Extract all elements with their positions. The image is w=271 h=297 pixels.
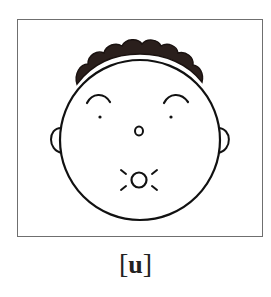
phoneme-caption: [u] — [0, 248, 271, 281]
caption-open-bracket: [ — [119, 248, 128, 279]
head-outline — [60, 60, 220, 220]
right-eye-icon — [169, 115, 172, 118]
caption-phoneme: u — [128, 250, 142, 279]
caption-close-bracket: ] — [143, 248, 152, 279]
left-eye-icon — [98, 115, 101, 118]
